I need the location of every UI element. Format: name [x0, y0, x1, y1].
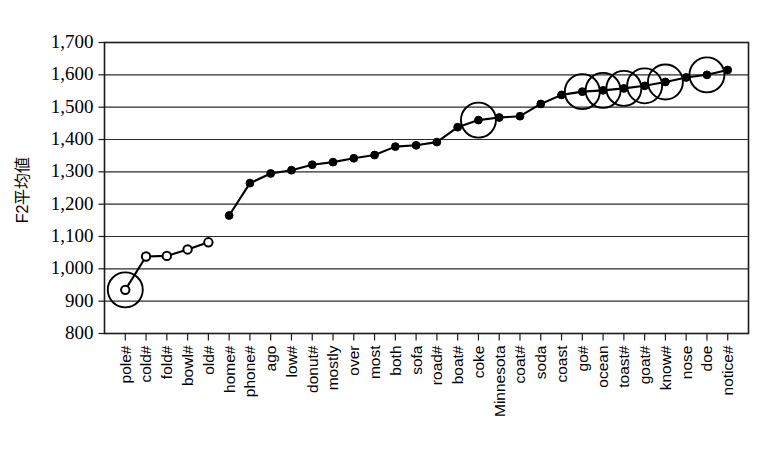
data-point-marker	[371, 151, 379, 159]
x-axis-tick-label: ocean	[594, 346, 611, 388]
data-point-marker	[288, 166, 296, 174]
x-axis-tick-label: donut#	[304, 345, 321, 393]
x-axis-tick-label: both	[387, 346, 404, 376]
chart-container: 8009001,0001,1001,2001,3001,4001,5001,60…	[0, 0, 776, 456]
x-axis-tick-label: pole#	[117, 345, 134, 383]
x-axis-tick-label: most	[366, 345, 383, 379]
y-axis-tick-labels: 8009001,0001,1001,2001,3001,4001,5001,60…	[51, 31, 94, 343]
x-axis-tick-label: old#	[200, 345, 217, 375]
x-axis-tick-label: coke	[470, 346, 487, 379]
x-axis-tick-label: goat#	[636, 345, 653, 384]
data-point-marker	[329, 158, 337, 166]
data-point-marker	[142, 252, 150, 260]
x-axis-tick-labels: pole#cold#fold#bowl#old#home#phone#agolo…	[117, 345, 736, 417]
x-axis-tick-label: fold#	[158, 345, 175, 379]
x-axis-tick-label: go#	[574, 345, 591, 371]
data-point-marker	[246, 179, 254, 187]
x-axis-tick-label: over	[345, 346, 362, 376]
data-point-marker	[391, 143, 399, 151]
x-axis-tick-label: cold#	[137, 345, 154, 382]
series-polyline	[229, 70, 728, 216]
x-axis-tick-label: coat#	[511, 345, 528, 383]
x-axis-tick-label: ago	[262, 346, 279, 372]
x-axis-tick-label: phone#	[241, 345, 258, 397]
plot-area-border	[105, 43, 749, 334]
data-markers-group	[121, 66, 732, 294]
x-axis-tick-label: soda	[532, 345, 549, 379]
data-point-marker	[433, 138, 441, 146]
data-series-group	[125, 70, 727, 290]
data-point-marker	[183, 245, 191, 253]
x-axis-tick-label: toast#	[615, 345, 632, 388]
x-axis-tick-label: sofa	[408, 345, 425, 375]
data-point-marker	[350, 154, 358, 162]
x-axis-tick-label: home#	[221, 345, 238, 393]
x-axis-tick-label: coast	[553, 345, 570, 383]
y-axis-tick-label: 1,700	[51, 31, 94, 52]
data-point-marker	[225, 212, 233, 220]
y-axis-tick-label: 1,400	[51, 128, 94, 149]
data-point-marker	[516, 112, 524, 120]
x-axis-tick-label: Minnesota	[491, 345, 508, 417]
x-axis-tick-label: know#	[657, 345, 674, 390]
data-point-marker	[454, 123, 462, 131]
x-axis-tick-label: bowl#	[179, 345, 196, 386]
y-axis-tick-label: 1,500	[51, 96, 94, 117]
y-axis-tick-label: 1,000	[51, 257, 94, 278]
x-axis-tick-label: doe	[698, 346, 715, 372]
highlight-annotations-group	[108, 57, 725, 307]
y-axis-tick-label: 1,300	[51, 160, 94, 181]
data-point-marker	[204, 238, 212, 246]
x-axis-tick-label: notice#	[719, 345, 736, 395]
data-point-marker	[163, 252, 171, 260]
y-axis-tick-label: 1,200	[51, 193, 94, 214]
data-point-marker	[703, 71, 711, 79]
data-point-marker	[267, 170, 275, 178]
data-point-marker	[308, 161, 316, 169]
y-axis-tick-label: 800	[65, 322, 94, 343]
y-axis-title: F2平均値	[14, 157, 31, 224]
data-point-marker	[412, 141, 420, 149]
data-point-marker	[121, 286, 129, 294]
series-polyline	[125, 242, 208, 290]
gridlines-group	[105, 75, 749, 301]
f2-mean-line-chart: 8009001,0001,1001,2001,3001,4001,5001,60…	[0, 0, 776, 456]
x-axis-tick-label: low#	[283, 345, 300, 377]
plot-frame	[105, 43, 749, 334]
x-axis-tick-label: nose	[678, 346, 695, 380]
x-axis-tick-label: road#	[428, 345, 445, 385]
x-axis-tick-label: boat#	[449, 345, 466, 384]
y-axis-tick-label: 1,600	[51, 63, 94, 84]
y-axis-tick-label: 900	[65, 290, 94, 311]
x-axis-tick-label: mostly	[324, 345, 341, 390]
data-point-marker	[475, 116, 483, 124]
y-axis-tick-label: 1,100	[51, 225, 94, 246]
y-axis-title-label: F2平均値	[14, 157, 31, 224]
data-point-marker	[537, 100, 545, 108]
